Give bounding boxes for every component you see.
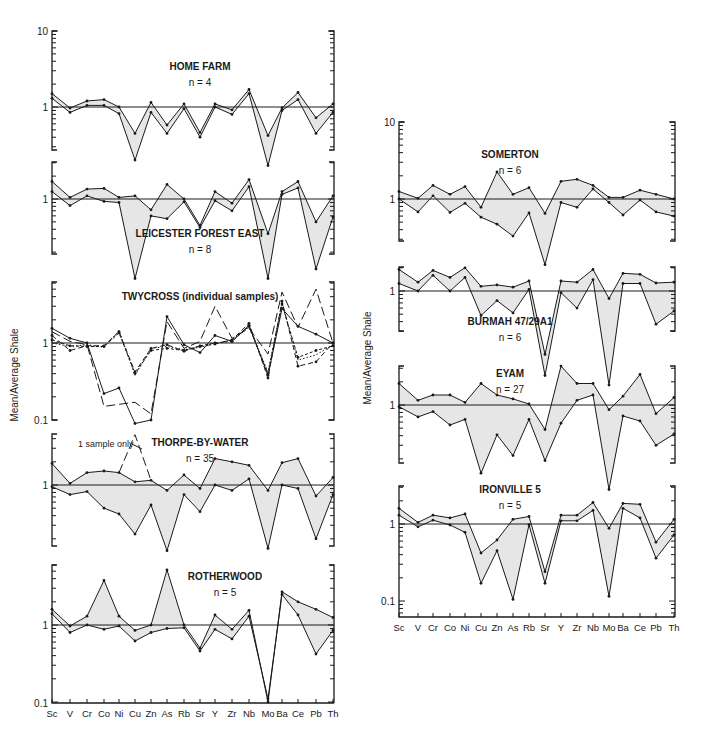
data-point — [449, 394, 452, 397]
data-point — [315, 608, 318, 611]
x-tick-label-co: Co — [444, 622, 456, 633]
data-point — [622, 214, 625, 217]
data-point — [51, 327, 54, 330]
data-point — [544, 374, 547, 377]
y-tick-label: 0.1 — [34, 415, 48, 426]
data-point — [592, 509, 595, 512]
x-tick-label-co: Co — [98, 708, 110, 719]
panel-title: ROTHERWOOD — [188, 571, 262, 582]
data-point — [655, 193, 658, 196]
data-point — [118, 625, 121, 628]
data-point — [51, 485, 54, 488]
data-point — [214, 484, 217, 487]
data-point — [480, 216, 483, 219]
data-point — [560, 519, 563, 522]
data-point — [103, 200, 106, 203]
data-point — [150, 631, 153, 634]
data-point — [655, 211, 658, 214]
data-point — [544, 570, 547, 573]
data-point — [673, 198, 676, 201]
data-point — [248, 615, 251, 618]
left-axis — [52, 434, 57, 546]
data-point — [639, 282, 642, 285]
data-point — [183, 493, 186, 496]
data-point — [281, 190, 284, 193]
data-point — [464, 513, 467, 516]
data-point — [199, 131, 202, 134]
panel-leicester-forest-east: LEICESTER FOREST EASTn = 8 — [51, 162, 335, 280]
data-point — [398, 382, 401, 385]
data-point — [512, 398, 515, 401]
data-point — [281, 590, 284, 593]
data-point — [183, 198, 186, 201]
data-point — [315, 653, 318, 656]
shaded-range — [399, 366, 674, 489]
data-point — [86, 195, 89, 198]
data-point — [150, 624, 153, 627]
data-point — [214, 106, 217, 109]
data-point — [315, 537, 318, 540]
data-point — [297, 180, 300, 183]
data-point — [512, 598, 515, 601]
data-point — [134, 159, 137, 162]
data-point — [398, 190, 401, 193]
x-tick-label-v: V — [415, 622, 422, 633]
data-point — [639, 199, 642, 202]
data-point — [267, 377, 270, 380]
data-point — [639, 373, 642, 376]
data-point — [199, 136, 202, 139]
data-point — [528, 418, 531, 421]
x-tick-label-zn: Zn — [491, 622, 502, 633]
data-point — [315, 221, 318, 224]
data-point — [496, 223, 499, 226]
y-tick-label: 1 — [42, 194, 48, 205]
data-point — [496, 433, 499, 436]
data-point — [199, 510, 202, 513]
x-tick-label-zr: Zr — [228, 708, 237, 719]
y-tick-label: 1 — [42, 620, 48, 631]
data-point — [655, 412, 658, 415]
data-point — [134, 533, 137, 536]
data-point — [69, 337, 72, 340]
data-point — [51, 334, 54, 337]
data-point — [248, 609, 251, 612]
x-tick-label-rb: Rb — [178, 708, 190, 719]
y-tick-label: 10 — [37, 26, 49, 37]
panel-sample-count: n = 4 — [189, 77, 212, 88]
panel-somerton: SOMERTONn = 6 — [398, 122, 676, 266]
data-point — [608, 488, 611, 491]
left-axis — [52, 565, 334, 703]
data-point — [315, 349, 318, 352]
panel-rotherwood: ROTHERWOODn = 5 — [51, 565, 335, 703]
data-point — [134, 277, 137, 280]
data-point — [69, 482, 72, 485]
data-point — [199, 344, 202, 347]
x-tick-label-nb: Nb — [243, 708, 255, 719]
data-point — [86, 104, 89, 107]
data-point — [297, 457, 300, 460]
x-tick-label-ba: Ba — [276, 708, 288, 719]
data-point — [449, 276, 452, 279]
data-point — [51, 190, 54, 193]
x-tick-label-nb: Nb — [587, 622, 599, 633]
series-line — [52, 309, 333, 424]
x-tick-label-sc: Sc — [393, 622, 404, 633]
y-tick-label: 1 — [42, 480, 48, 491]
x-tick-label-sr: Sr — [195, 708, 205, 719]
left-axis — [399, 122, 404, 241]
data-point — [166, 343, 169, 346]
data-point — [576, 399, 579, 402]
data-point — [86, 624, 89, 627]
data-point — [281, 109, 284, 112]
data-point — [496, 284, 499, 287]
data-point — [315, 333, 318, 336]
data-point — [480, 582, 483, 585]
x-tick-label-as: As — [161, 708, 172, 719]
data-point — [214, 614, 217, 617]
x-tick-label-sr: Sr — [540, 622, 550, 633]
series-line — [399, 275, 674, 385]
y-tick-label: 0.1 — [381, 596, 395, 607]
annotation-one-sample: 1 sample only — [78, 439, 134, 449]
right-axis — [329, 31, 334, 150]
data-point — [69, 111, 72, 114]
